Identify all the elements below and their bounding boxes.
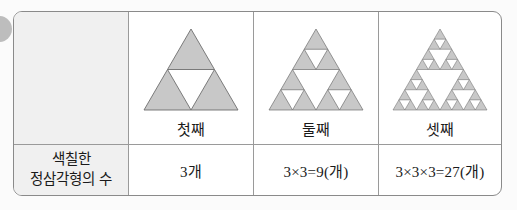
shaded-triangle (428, 39, 440, 49)
shaded-triangle (446, 49, 458, 59)
shaded-triangle (440, 100, 452, 110)
sierpinski-svg (142, 27, 240, 112)
shaded-triangle (475, 100, 487, 110)
shaded-triangle (452, 80, 464, 90)
counts-row: 색칠한 정삼각형의 수 3개 3×3=9(개) 3×3×3=27(개) (14, 144, 501, 195)
shaded-triangle (428, 59, 440, 69)
sierpinski-figure-third (379, 16, 501, 123)
shaded-triangle (440, 39, 452, 49)
count-text-first: 3개 (180, 160, 202, 181)
shaded-triangle (434, 29, 446, 39)
shaded-triangle (328, 70, 352, 90)
shaded-triangle (191, 70, 238, 111)
sierpinski-figure-second (254, 16, 378, 123)
ordinal-label-second: 둘째 (302, 123, 331, 144)
row-header-line-1: 색칠한 (30, 150, 112, 170)
sierpinski-svg (267, 27, 365, 112)
ordinal-label-first: 첫째 (177, 123, 206, 144)
shaded-triangle (446, 90, 458, 100)
shaded-triangle (316, 49, 340, 69)
shaded-triangle (405, 100, 417, 110)
shaded-triangle (316, 90, 340, 110)
shaded-triangle (405, 80, 417, 90)
shaded-triangle (281, 70, 305, 90)
shaded-triangle (399, 90, 411, 100)
row-header-line-2: 정삼각형의 수 (30, 170, 112, 190)
shaded-triangle (411, 70, 423, 80)
shaded-triangle (458, 70, 470, 80)
shaded-triangle (464, 80, 476, 90)
ordinal-label-third: 셋째 (426, 123, 455, 144)
sierpinski-figure-first (129, 16, 253, 123)
shaded-triangle (440, 59, 452, 69)
sierpinski-svg (391, 27, 489, 112)
shaded-triangle (269, 90, 293, 110)
empty-header-cell (14, 12, 128, 144)
decorative-bullet (0, 16, 12, 42)
shaded-triangle (452, 59, 464, 69)
count-cell-third: 3×3×3=27(개) (378, 145, 501, 195)
shaded-triangle (469, 90, 481, 100)
figure-cell-second: 둘째 (253, 12, 378, 144)
shaded-triangle (304, 29, 328, 49)
shaded-triangle (168, 29, 215, 70)
shaded-triangle (422, 90, 434, 100)
shaded-triangle (464, 100, 476, 110)
row-header-label: 색칠한 정삼각형의 수 (30, 150, 112, 189)
shaded-triangle (422, 49, 434, 59)
figures-row: 첫째 둘째 셋째 (14, 12, 501, 144)
figure-cell-third: 셋째 (378, 12, 501, 144)
sierpinski-pattern-table: 첫째 둘째 셋째 색칠한 정삼각형의 수 3개 3×3=9( (13, 11, 502, 196)
shaded-triangle (417, 59, 429, 69)
count-cell-first: 3개 (128, 145, 253, 195)
shaded-triangle (417, 100, 429, 110)
count-text-third: 3×3×3=27(개) (395, 160, 484, 181)
shaded-triangle (340, 90, 364, 110)
shaded-triangle (293, 90, 317, 110)
count-cell-second: 3×3=9(개) (253, 145, 378, 195)
shaded-triangle (144, 70, 191, 111)
shaded-triangle (452, 100, 464, 110)
shaded-triangle (393, 100, 405, 110)
shaded-triangle (428, 100, 440, 110)
count-text-second: 3×3=9(개) (283, 160, 348, 181)
shaded-triangle (417, 80, 429, 90)
row-header-cell: 색칠한 정삼각형의 수 (14, 145, 128, 195)
shaded-triangle (293, 49, 317, 69)
figure-cell-first: 첫째 (128, 12, 253, 144)
